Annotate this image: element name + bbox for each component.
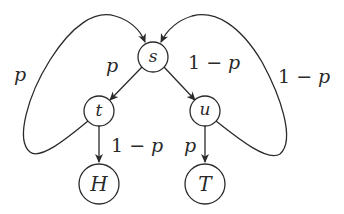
label-s-to-u-num: 1 [188, 51, 200, 73]
node-T-label: T [198, 172, 213, 196]
label-s-to-u-op: − [200, 51, 228, 73]
label-s-to-u-var: p [228, 51, 240, 73]
node-u: u [190, 96, 220, 126]
label-u-to-s: 1 − p [278, 65, 330, 87]
node-t: t [84, 96, 114, 126]
node-s: s [138, 42, 168, 72]
node-H: H [79, 164, 119, 204]
edge-u-to-s-loop [161, 15, 287, 156]
label-s-to-u: 1 − p [188, 51, 240, 73]
label-u-to-T: p [184, 134, 196, 156]
label-t-to-H-var: p [151, 134, 163, 156]
node-u-label: u [200, 99, 211, 119]
label-t-to-H: 1 − p [111, 134, 163, 156]
label-t-to-H-op: − [123, 134, 151, 156]
node-t-label: t [96, 100, 103, 120]
label-t-to-H-num: 1 [111, 134, 123, 156]
label-t-to-s: p [14, 63, 26, 85]
label-s-to-t: p [106, 54, 118, 76]
node-H-label: H [89, 172, 108, 196]
label-u-to-s-var: p [318, 65, 330, 87]
label-u-to-s-num: 1 [278, 65, 290, 87]
node-T: T [185, 164, 225, 204]
state-diagram: s t u H T p p 1 − p 1 − p 1 − p p [0, 0, 344, 214]
label-u-to-s-op: − [290, 65, 318, 87]
edge-t-to-s-loop [24, 15, 145, 154]
node-s-label: s [149, 46, 158, 66]
